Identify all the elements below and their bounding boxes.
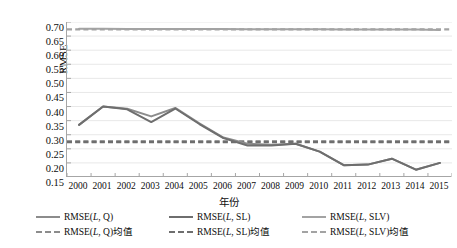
plot-lines xyxy=(67,22,452,177)
legend-dashed-swatch-icon xyxy=(36,227,60,237)
y-tick-label: 0.40 xyxy=(26,107,64,118)
x-axis-tick-labels: 2000200120022003200420052006200720082009… xyxy=(66,180,451,194)
series-line xyxy=(79,107,440,170)
legend-item[interactable]: RMSE(L, Q) xyxy=(36,209,169,224)
y-tick-label: 0.25 xyxy=(26,149,64,160)
legend-dashed-swatch-icon xyxy=(169,227,193,237)
legend-item[interactable]: RMSE(L, SL) xyxy=(169,209,302,224)
legend-line-swatch-icon xyxy=(302,212,326,222)
plot-area xyxy=(66,22,451,177)
y-tick-label: 0.30 xyxy=(26,135,64,146)
legend-item[interactable]: RMSE(L, SLV)均值 xyxy=(302,224,435,239)
legend-label: RMSE(L, SLV)均值 xyxy=(330,226,409,238)
y-tick-label: 0.45 xyxy=(26,92,64,103)
rmse-line-chart: RMSE 0.700.650.600.550.500.450.400.350.3… xyxy=(0,0,457,248)
y-tick-label: 0.50 xyxy=(26,78,64,89)
legend-label: RMSE(L, Q)均值 xyxy=(64,226,133,238)
legend-label: RMSE(L, SL)均值 xyxy=(197,226,270,238)
y-tick-label: 0.60 xyxy=(26,50,64,61)
legend-item[interactable]: RMSE(L, Q)均值 xyxy=(36,224,169,239)
legend-line-swatch-icon xyxy=(36,212,60,222)
legend-item[interactable]: RMSE(L, SL)均值 xyxy=(169,224,302,239)
y-tick-label: 0.65 xyxy=(26,36,64,47)
y-tick-label: 0.70 xyxy=(26,22,64,33)
series-line xyxy=(79,29,440,30)
legend-label: RMSE(L, SL) xyxy=(197,211,250,223)
legend-dashed-swatch-icon xyxy=(302,227,326,237)
y-axis-tick-labels: 0.700.650.600.550.500.450.400.350.300.25… xyxy=(26,16,64,182)
legend-label: RMSE(L, SLV) xyxy=(330,211,389,223)
y-tick-label: 0.15 xyxy=(26,177,64,188)
legend-item[interactable]: RMSE(L, SLV) xyxy=(302,209,435,224)
y-tick-label: 0.20 xyxy=(26,163,64,174)
legend-line-swatch-icon xyxy=(169,212,193,222)
y-tick-label: 0.35 xyxy=(26,121,64,132)
x-axis-title: 年份 xyxy=(0,194,457,209)
x-tick-label: 2015 xyxy=(422,180,456,192)
legend-label: RMSE(L, Q) xyxy=(64,211,113,223)
y-tick-label: 0.55 xyxy=(26,64,64,75)
legend-row-dashed: RMSE(L, Q)均值RMSE(L, SL)均值RMSE(L, SLV)均值 xyxy=(36,224,436,239)
chart-legend: RMSE(L, Q)RMSE(L, SL)RMSE(L, SLV) RMSE(L… xyxy=(36,209,436,243)
legend-row-solid: RMSE(L, Q)RMSE(L, SL)RMSE(L, SLV) xyxy=(36,209,436,224)
